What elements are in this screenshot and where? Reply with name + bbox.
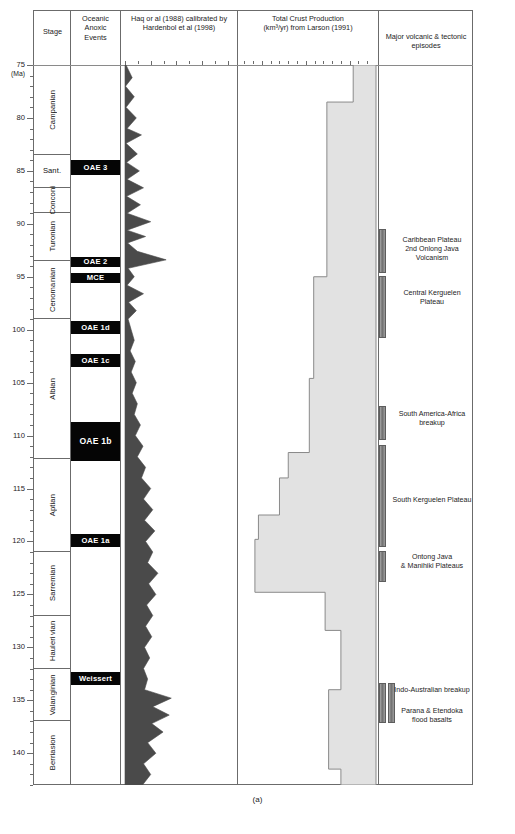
crust-header-line1: Total Crust Production <box>240 14 376 23</box>
volcanic-bar <box>379 551 386 582</box>
axis-tick-minor <box>30 669 33 670</box>
stage-label: Sarremian <box>48 565 57 601</box>
axis-tick-minor <box>30 86 33 87</box>
oae-band: Weissert <box>71 672 120 686</box>
axis-tick-minor <box>30 129 33 130</box>
axis-tick-minor <box>30 711 33 712</box>
sealevel-header-line2: Hardenbol et al (1998) <box>122 23 236 32</box>
volcanic-bar <box>379 276 386 338</box>
volcanic-label: Parana & Etendokaflood basalts <box>392 707 472 725</box>
axis-tick-minor <box>30 478 33 479</box>
axis-tick-minor <box>30 319 33 320</box>
oae-band: OAE 3 <box>71 160 120 175</box>
axis-tick-major <box>27 224 33 225</box>
crust-tick-minor <box>279 61 280 64</box>
axis-tick-minor <box>30 361 33 362</box>
axis-tick-minor <box>30 425 33 426</box>
column-header-stage: Stage <box>36 27 69 36</box>
axis-tick-minor <box>30 351 33 352</box>
stage-cell: Conconi <box>34 188 70 213</box>
axis-tick-major <box>27 594 33 595</box>
axis-tick-major <box>27 489 33 490</box>
axis-tick-minor <box>30 245 33 246</box>
axis-tick-minor <box>30 457 33 458</box>
axis-tick-major <box>27 647 33 648</box>
stage-label: Conconi <box>48 186 57 215</box>
volcanic-label: Indo-Australian breakup <box>392 686 472 695</box>
axis-tick-major <box>27 277 33 278</box>
axis-tick-minor <box>30 510 33 511</box>
axis-tick-minor <box>30 340 33 341</box>
axis-label-ma: 105 <box>0 378 25 387</box>
axis-tick-minor <box>30 266 33 267</box>
axis-tick-minor <box>30 743 33 744</box>
axis-tick-major <box>27 436 33 437</box>
crust-production-area <box>255 65 376 785</box>
crust-tick-minor <box>341 61 342 64</box>
sealevel-header-line1: Haq or al (1988) calibrated by <box>122 14 236 23</box>
stage-label: Aptian <box>48 494 57 516</box>
axis-unit-label: (Ma) <box>0 70 25 77</box>
column-header-crust: Total Crust Production (km³/yr) from Lar… <box>240 14 376 33</box>
axis-tick-minor <box>30 97 33 98</box>
axis-tick-minor <box>30 732 33 733</box>
axis-tick-minor <box>30 287 33 288</box>
axis-label-ma: 125 <box>0 589 25 598</box>
sealevel-tick-minor <box>164 61 165 64</box>
crust-tick-minor <box>297 61 298 64</box>
volcanic-header-line2: episodes <box>381 41 471 50</box>
volcanic-label: Ontong Java& Manihiki Plateaus <box>392 553 472 571</box>
axis-tick-minor <box>30 616 33 617</box>
axis-tick-minor <box>30 372 33 373</box>
stage-cell: Sant. <box>34 155 70 188</box>
figure-root: Stage Oceanic Anoxic Events Haq or al (1… <box>0 0 515 834</box>
axis-tick-minor <box>30 139 33 140</box>
axis-tick-minor <box>30 404 33 405</box>
figure-caption: (a) <box>0 795 515 804</box>
column-header-volcanic: Major volcanic & tectonic episodes <box>381 32 471 51</box>
axis-label-ma: 130 <box>0 642 25 651</box>
volcanic-label-line1: Indo-Australian breakup <box>392 686 472 695</box>
axis-tick-minor <box>30 626 33 627</box>
stage-cell: Haulerivian <box>34 616 70 669</box>
stage-cell: Sarremian <box>34 552 70 616</box>
volcanic-label-line1: South Kerguelen Plateau <box>392 496 472 505</box>
oae-label: OAE 1a <box>81 536 109 545</box>
axis-tick-major <box>27 118 33 119</box>
axis-tick-minor <box>30 298 33 299</box>
axis-tick-minor <box>30 181 33 182</box>
crust-tick-minor <box>253 61 254 64</box>
stage-label: Albian <box>48 378 57 400</box>
stage-cell: Cenomanian <box>34 261 70 319</box>
volcanic-bar <box>379 229 386 272</box>
axis-tick-minor <box>30 160 33 161</box>
axis-tick-minor <box>30 213 33 214</box>
axis-tick-minor <box>30 679 33 680</box>
axis-tick-minor <box>30 76 33 77</box>
axis-tick-minor <box>30 774 33 775</box>
oae-label: MCE <box>87 273 104 282</box>
stage-label: Campanian <box>48 90 57 130</box>
volcanic-label: Caribbean Plateau2nd Onlong Java Volcani… <box>392 236 472 263</box>
sea-level-area <box>125 65 171 785</box>
sealevel-tick-minor <box>189 61 190 64</box>
axis-tick-minor <box>30 256 33 257</box>
stage-label: Turonian <box>48 221 57 252</box>
column-rule-stage <box>70 10 71 785</box>
axis-label-ma: 95 <box>0 272 25 281</box>
oae-band: OAE 1c <box>71 354 120 367</box>
axis-tick-minor <box>30 499 33 500</box>
crust-tick-minor <box>271 61 272 64</box>
oae-band: OAE 1b <box>71 422 120 461</box>
volcanic-label-line1: Caribbean Plateau <box>392 236 472 245</box>
crust-tick-minor <box>315 61 316 64</box>
axis-label-ma: 100 <box>0 325 25 334</box>
crust-production-curve <box>238 65 378 785</box>
oae-label: OAE 1d <box>81 323 110 332</box>
column-header-sealevel: Haq or al (1988) calibrated by Hardenbol… <box>122 14 236 33</box>
axis-tick-minor <box>30 552 33 553</box>
crust-tick-minor <box>244 61 245 64</box>
oae-header-line1: Oceanic <box>72 14 119 23</box>
oae-band: OAE 1d <box>71 321 120 334</box>
oae-label: OAE 2 <box>84 257 108 266</box>
